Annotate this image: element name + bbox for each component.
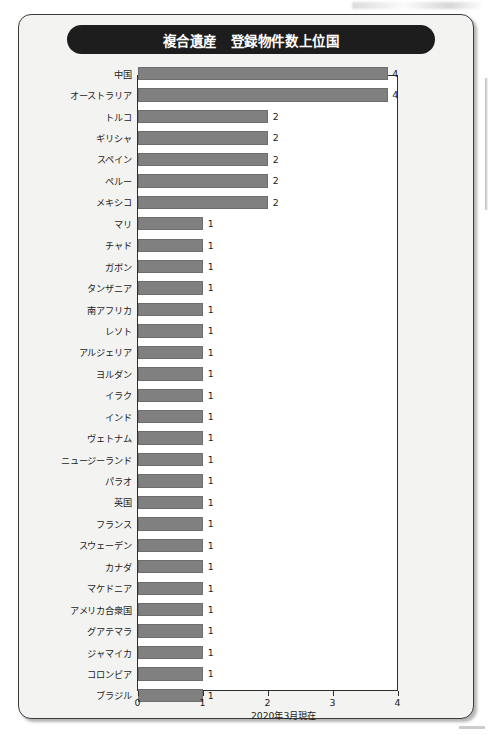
bar: [138, 646, 203, 659]
bar-track: 2: [138, 127, 398, 148]
bar: [138, 239, 203, 252]
bar-track: 2: [138, 149, 398, 170]
scan-artifact-top: [352, 2, 482, 9]
bar: [138, 367, 203, 380]
bar: [138, 281, 203, 294]
bar-category-label: ヨルダン: [19, 367, 132, 381]
bar-value-label: 1: [208, 626, 214, 635]
bar-row: メキシコ2: [19, 192, 475, 213]
bar: [138, 303, 203, 316]
bar-category-label: コロンビア: [19, 667, 132, 681]
bar-value-label: 1: [208, 262, 214, 271]
bar-value-label: 2: [273, 133, 279, 142]
bar-value-label: 1: [208, 305, 214, 314]
bar-category-label: オーストラリア: [19, 88, 132, 102]
bar-track: 1: [138, 449, 398, 470]
bar-value-label: 1: [208, 433, 214, 442]
bar: [138, 603, 203, 616]
bar-value-label: 1: [208, 669, 214, 678]
bar-row: トルコ2: [19, 106, 475, 127]
bar: [138, 131, 268, 144]
bar-value-label: 2: [273, 198, 279, 207]
bar-category-label: レソト: [19, 324, 132, 338]
bar-track: 1: [138, 599, 398, 620]
bar-value-label: 1: [208, 283, 214, 292]
bar-category-label: イラク: [19, 388, 132, 402]
bar-track: 1: [138, 363, 398, 384]
page-title: 複合遺産 登録物件数上位国: [163, 30, 340, 50]
bar-track: 1: [138, 663, 398, 684]
bar-category-label: マリ: [19, 217, 132, 231]
bar-track: 1: [138, 513, 398, 534]
bar-category-label: マケドニア: [19, 581, 132, 595]
bar-category-label: フランス: [19, 517, 132, 531]
bar-track: 1: [138, 256, 398, 277]
bar-category-label: グアテマラ: [19, 624, 132, 638]
bar-value-label: 1: [208, 476, 214, 485]
bar-value-label: 1: [208, 562, 214, 571]
bar-row: チャド1: [19, 235, 475, 256]
bar-track: 4: [138, 84, 398, 105]
bar: [138, 260, 203, 273]
bar: [138, 346, 203, 359]
bar-value-label: 4: [392, 69, 398, 78]
bar-value-label: 1: [208, 219, 214, 228]
bar: [138, 517, 203, 530]
bar: [138, 496, 203, 509]
bar-category-label: ジャマイカ: [19, 646, 132, 660]
bar-value-label: 1: [208, 584, 214, 593]
footnote: 2020年3月現在: [251, 708, 316, 722]
bar-track: 1: [138, 277, 398, 298]
bar-track: 1: [138, 406, 398, 427]
x-axis-tick-label: 0: [135, 697, 141, 708]
bar-row: タンザニア1: [19, 277, 475, 298]
bar: [138, 431, 203, 444]
bar: [138, 624, 203, 637]
bar-track: 1: [138, 642, 398, 663]
scan-artifact-bottom-right: [459, 726, 485, 729]
bar-category-label: トルコ: [19, 110, 132, 124]
bar: [138, 453, 203, 466]
bar: [138, 560, 203, 573]
bar-track: 1: [138, 492, 398, 513]
bar: [138, 196, 268, 209]
bar-track: 1: [138, 620, 398, 641]
bar-track: 1: [138, 342, 398, 363]
bar-track: 1: [138, 320, 398, 341]
bar-category-label: タンザニア: [19, 281, 132, 295]
bar-value-label: 1: [208, 541, 214, 550]
bar-category-label: 中国: [19, 67, 132, 81]
bar-row: 南アフリカ1: [19, 299, 475, 320]
bar-category-label: 南アフリカ: [19, 303, 132, 317]
bar-track: 2: [138, 106, 398, 127]
bar-row: ヴェトナム1: [19, 427, 475, 448]
scan-artifact-right-edge: [485, 78, 488, 210]
bar-category-label: 英国: [19, 495, 132, 509]
bar-row: インド1: [19, 406, 475, 427]
bar-track: 1: [138, 385, 398, 406]
bar-value-label: 2: [273, 112, 279, 121]
bar-value-label: 1: [208, 455, 214, 464]
bar-track: 1: [138, 535, 398, 556]
bar-row: ペルー2: [19, 170, 475, 191]
bar-category-label: ブラジル: [19, 688, 132, 702]
bar: [138, 324, 203, 337]
bar-chart: 中国4オーストラリア4トルコ2ギリシャ2スペイン2ペルー2メキシコ2マリ1チャド…: [19, 63, 475, 713]
x-axis-tick: [138, 691, 139, 696]
bar-row: イラク1: [19, 385, 475, 406]
bar: [138, 474, 203, 487]
bar-category-label: アメリカ合衆国: [19, 603, 132, 617]
bar-row: マケドニア1: [19, 578, 475, 599]
bar-value-label: 1: [208, 519, 214, 528]
bar-category-label: ニュージーランド: [19, 453, 132, 467]
bar: [138, 110, 268, 123]
bar-value-label: 1: [208, 369, 214, 378]
bar-row: ヨルダン1: [19, 363, 475, 384]
bar-track: 2: [138, 170, 398, 191]
bar-row: ニュージーランド1: [19, 449, 475, 470]
chart-card: 複合遺産 登録物件数上位国 中国4オーストラリア4トルコ2ギリシャ2スペイン2ペ…: [18, 14, 474, 719]
bar-track: 1: [138, 556, 398, 577]
bar-row: カナダ1: [19, 556, 475, 577]
x-axis-tick-label: 4: [395, 697, 401, 708]
x-axis-tick-label: 1: [200, 697, 206, 708]
